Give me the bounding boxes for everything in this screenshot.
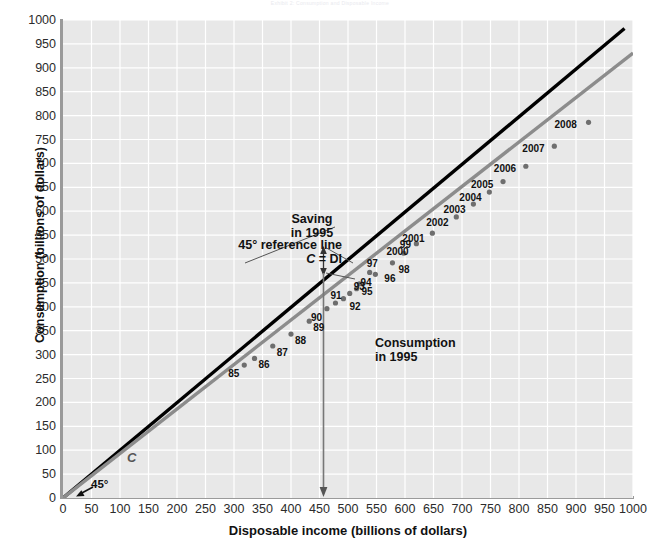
consumption-curve-label: C (127, 450, 136, 465)
reference-line-callout-di: DI (330, 252, 343, 266)
point-label-97: 97 (367, 259, 378, 269)
y-axis-title: Consumption (billions of dollars) (33, 125, 47, 365)
point-label-86: 86 (259, 360, 270, 370)
point-label-2007: 2007 (522, 144, 544, 154)
y-tick-labels: 0501001502002503003504004505005506006507… (8, 0, 56, 552)
reference-line-callout: 45° reference line C = DI (172, 238, 342, 266)
plot-area (63, 20, 633, 498)
y-tick-250: 250 (10, 373, 56, 385)
y-tick-800: 800 (10, 110, 56, 122)
y-tick-150: 150 (10, 420, 56, 432)
plot-svg (63, 20, 633, 498)
point-label-2005: 2005 (471, 180, 493, 190)
point-label-2006: 2006 (494, 164, 516, 174)
point-label-98: 98 (398, 265, 409, 275)
point-label-96: 96 (384, 274, 395, 284)
saving-callout: Saving in 1995 (272, 212, 352, 240)
point-label-95: 95 (361, 287, 372, 297)
faint-header-text: Exhibit 2: Consumption and Disposable In… (150, 0, 510, 9)
saving-callout-line2: in 1995 (291, 226, 333, 240)
x-axis-title: Disposable income (billions of dollars) (63, 523, 633, 538)
y-tick-50: 50 (10, 468, 56, 480)
point-label-92: 92 (349, 302, 360, 312)
y-tick-950: 950 (10, 38, 56, 50)
point-label-89: 89 (313, 323, 324, 333)
point-label-2008: 2008 (555, 120, 577, 130)
y-tick-100: 100 (10, 444, 56, 456)
angle-45-label: 45° (91, 478, 108, 490)
point-label-2004: 2004 (459, 193, 481, 203)
consumption-callout-line2: in 1995 (375, 350, 417, 364)
reference-line-callout-line1: 45° reference line (238, 238, 342, 252)
point-label-2002: 2002 (426, 218, 448, 228)
point-label-87: 87 (277, 348, 288, 358)
point-label-2000: 2000 (386, 247, 408, 257)
y-tick-200: 200 (10, 396, 56, 408)
point-label-91: 91 (330, 291, 341, 301)
reference-line-callout-eq: = (319, 252, 326, 266)
x-tick-1000: 1000 (611, 502, 655, 516)
reference-line-callout-c: C (306, 252, 315, 266)
point-label-2001: 2001 (402, 234, 424, 244)
consumption-callout: Consumption in 1995 (375, 336, 495, 364)
chart-figure: Exhibit 2: Consumption and Disposable In… (0, 0, 655, 552)
point-label-85: 85 (228, 369, 239, 379)
consumption-callout-line1: Consumption (375, 336, 456, 350)
y-tick-850: 850 (10, 86, 56, 98)
point-label-90: 90 (311, 313, 322, 323)
point-label-88: 88 (295, 336, 306, 346)
point-label-2003: 2003 (443, 205, 465, 215)
y-tick-900: 900 (10, 62, 56, 74)
y-tick-1000: 1000 (10, 14, 56, 26)
reference-line-45 (63, 29, 625, 499)
saving-callout-line1: Saving (292, 212, 333, 226)
